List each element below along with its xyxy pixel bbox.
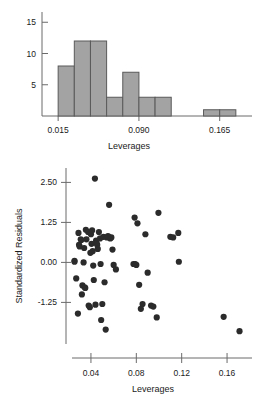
histogram-x-tick-label: 0.165 [209,125,231,135]
scatter-point [92,175,98,181]
scatter-point [133,262,139,268]
histogram-y-tick-label: 10 [27,49,37,59]
histogram-panel: 510150.0150.0900.165Leverages [0,0,262,152]
scatter-point [81,245,87,251]
scatter-point [98,317,104,323]
scatter-x-tick-label: 0.04 [83,368,100,378]
scatter-y-tick-label: 0.00 [40,257,57,267]
histogram-bar [204,110,220,116]
scatter-point [80,259,86,265]
scatter-point [95,246,101,252]
scatter-point [108,234,114,240]
histogram-bar [220,110,236,116]
scatter-point [87,304,93,310]
scatter-point [75,311,81,317]
histogram-bar [58,66,74,116]
histogram-y-tick-label: 5 [31,80,36,90]
scatter-point [154,314,160,320]
leverages-histogram: 510150.0150.0900.165Leverages [0,0,262,152]
scatter-point [96,229,102,235]
scatter-point [221,314,227,320]
scatter-y-tick-label: 1.25 [40,217,57,227]
scatter-point [92,302,98,308]
scatter-point [145,270,151,276]
scatter-x-axis-title: Leverages [132,384,175,394]
scatter-point [142,231,148,237]
histogram-bar [139,97,155,116]
scatter-y-tick-label: 2.50 [40,177,57,187]
scatter-point [236,328,242,334]
scatter-point [113,266,119,272]
scatter-point [170,234,176,240]
scatter-x-tick-label: 0.12 [173,368,190,378]
histogram-bar [107,97,123,116]
scatter-point [106,202,112,208]
scatter-point [139,301,145,307]
scatter-point [97,261,103,267]
scatter-point [132,215,138,221]
scatter-point [109,247,115,253]
histogram-bar [74,41,90,116]
scatter-point [91,277,97,283]
scatter-panel: -1.250.001.252.500.040.080.120.16Leverag… [0,152,262,401]
scatter-point [150,303,156,309]
scatter-point [71,259,77,265]
histogram-x-tick-label: 0.015 [48,125,70,135]
histogram-x-axis-title: Leverages [108,141,151,151]
residuals-vs-leverages-scatter: -1.250.001.252.500.040.080.120.16Leverag… [0,152,262,401]
scatter-point [82,285,88,291]
histogram-bar [90,41,106,116]
histogram-y-tick-label: 15 [27,17,37,27]
scatter-point [175,230,181,236]
scatter-point [103,327,109,333]
scatter-point [101,279,107,285]
scatter-point [136,282,142,288]
histogram-bar [155,97,171,116]
scatter-point [99,301,105,307]
scatter-x-tick-label: 0.16 [219,368,236,378]
scatter-point [176,259,182,265]
scatter-point [83,236,89,242]
scatter-point [75,230,81,236]
histogram-x-tick-label: 0.090 [128,125,150,135]
scatter-point [89,227,95,233]
scatter-y-axis-title: Standardized Residuals [14,208,24,304]
scatter-y-tick-label: -1.25 [38,297,58,307]
scatter-x-tick-label: 0.08 [128,368,145,378]
scatter-point [155,210,161,216]
histogram-bar [123,72,139,116]
figure-container: 510150.0150.0900.165Leverages -1.250.001… [0,0,262,401]
scatter-point [73,275,79,281]
scatter-point [90,263,96,269]
scatter-point [134,220,140,226]
scatter-point [79,291,85,297]
